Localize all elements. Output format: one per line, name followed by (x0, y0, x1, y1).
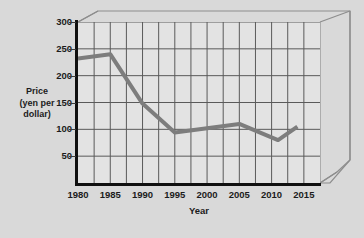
y-tick-mark (69, 103, 76, 104)
x-axis-line (75, 183, 321, 186)
y-tick-mark (69, 49, 76, 50)
y-axis-title-line1: Price (8, 86, 66, 98)
x-axis-ticks: 19801985199019952000200520102015 (0, 189, 364, 203)
y-tick-label: 300 (42, 17, 72, 27)
y-tick-mark (69, 156, 76, 157)
y-tick-label: 50 (42, 151, 72, 161)
y-tick-mark (69, 129, 76, 130)
y-axis-title-line2: (yen per (8, 98, 66, 110)
y-axis-title: Price (yen per dollar) (8, 86, 66, 121)
data-series-line (78, 22, 320, 183)
y-axis-title-line3: dollar) (8, 109, 66, 121)
chart-figure: 30025020015010050 1980198519901995200020… (0, 0, 364, 238)
y-tick-label: 250 (42, 44, 72, 54)
x-tick-label: 2015 (284, 189, 324, 200)
y-tick-label: 200 (42, 71, 72, 81)
y-tick-mark (69, 76, 76, 77)
y-tick-mark (69, 22, 76, 23)
plot-area (78, 22, 320, 183)
x-axis-title: Year (78, 205, 320, 216)
y-tick-label: 100 (42, 124, 72, 134)
